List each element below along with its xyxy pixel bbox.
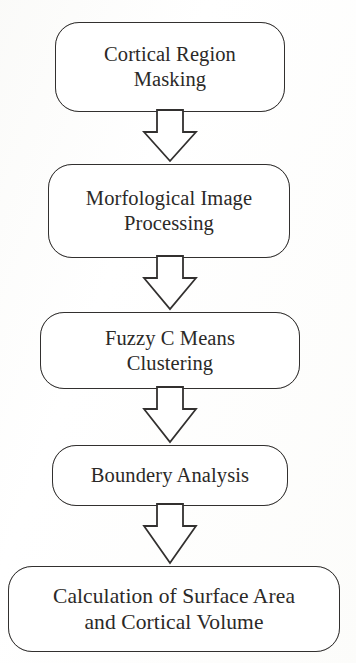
flow-arrow-down-4: [0, 0, 356, 663]
flow-node-calculation-of-surface-area-and-cortical-volume[interactable]: Calculation of Surface Area and Cortical…: [8, 566, 340, 652]
flowchart-diagram: Cortical Region Masking Morfological Ima…: [0, 0, 356, 663]
flow-node-label: Calculation of Surface Area and Cortical…: [45, 583, 303, 635]
block-arrow-shape: [144, 504, 196, 563]
